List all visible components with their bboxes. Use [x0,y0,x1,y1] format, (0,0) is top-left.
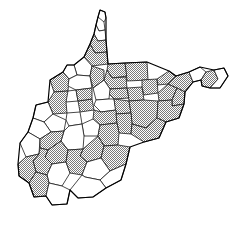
county-tucker[interactable] [142,79,158,95]
county-calhoun[interactable] [76,88,92,101]
county-choropleth-map [0,0,238,225]
map-svg-canvas [0,0,238,225]
county-barbour[interactable] [127,87,144,101]
county-preston[interactable] [125,62,148,81]
county-roane[interactable] [66,112,82,126]
county-taylor[interactable] [109,88,129,99]
county-upshur[interactable] [114,99,131,114]
